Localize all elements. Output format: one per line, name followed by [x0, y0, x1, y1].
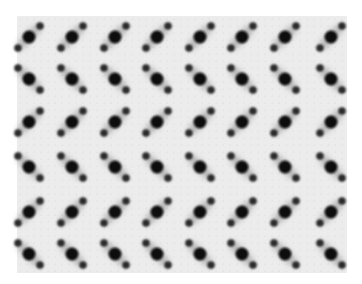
spot-triplet — [270, 64, 300, 94]
spot-triplet — [227, 22, 257, 52]
spot-triplet — [14, 152, 44, 182]
spot-triplet — [185, 239, 215, 269]
spot-triplet — [14, 64, 44, 94]
spot-triplet — [316, 22, 346, 52]
spot-triplet — [270, 22, 300, 52]
spot-triplet — [14, 239, 44, 269]
spot-triplet — [227, 64, 257, 94]
spot-triplet — [270, 107, 300, 137]
spot-triplet — [185, 64, 215, 94]
spot-triplet — [142, 64, 172, 94]
spot-triplet — [270, 239, 300, 269]
spot-triplet — [185, 197, 215, 227]
spot-triplet — [57, 64, 87, 94]
spot-triplet — [142, 22, 172, 52]
spot-triplet — [57, 239, 87, 269]
spot-triplet — [142, 152, 172, 182]
spot-triplet — [100, 197, 130, 227]
spot-triplet — [57, 152, 87, 182]
spot-triplet — [316, 107, 346, 137]
spot-triplet — [316, 239, 346, 269]
spot-triplet — [227, 197, 257, 227]
spot-triplet — [270, 197, 300, 227]
spot-triplet — [57, 107, 87, 137]
spot-triplet — [100, 22, 130, 52]
spot-triplet — [14, 107, 44, 137]
spot-triplet — [100, 64, 130, 94]
spot-triplet — [142, 239, 172, 269]
spot-triplet — [57, 197, 87, 227]
spot-triplet — [270, 152, 300, 182]
spot-triplet — [100, 107, 130, 137]
spot-triplet — [185, 152, 215, 182]
spot-triplet — [316, 197, 346, 227]
spot-triplet — [100, 239, 130, 269]
spot-triplet — [185, 22, 215, 52]
spot-triplet — [185, 107, 215, 137]
spot-triplet — [142, 107, 172, 137]
spot-triplet — [316, 64, 346, 94]
spot-triplet — [227, 152, 257, 182]
spot-triplet — [14, 22, 44, 52]
spot-triplet — [316, 152, 346, 182]
spot-triplet — [142, 197, 172, 227]
spot-triplet — [14, 197, 44, 227]
spot-triplet — [227, 239, 257, 269]
spot-triplet — [57, 22, 87, 52]
diffraction-lattice — [0, 0, 362, 284]
spot-triplet — [100, 152, 130, 182]
spot-triplet — [227, 107, 257, 137]
